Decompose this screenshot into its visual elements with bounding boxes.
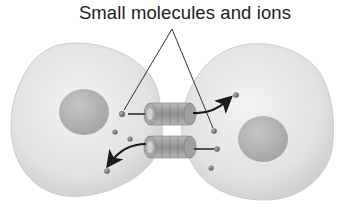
upper-gap-junction-channel: [144, 103, 196, 125]
molecule: [127, 136, 132, 141]
molecule: [104, 168, 110, 174]
right-nucleus: [238, 116, 288, 162]
molecule: [112, 129, 117, 134]
left-nucleus: [59, 89, 109, 135]
left-cell: [11, 43, 162, 196]
diagram-label: Small molecules and ions: [0, 2, 340, 24]
molecule: [208, 165, 213, 170]
molecule: [211, 128, 217, 134]
lower-gap-junction-channel: [144, 136, 196, 158]
gap-junction-diagram: Small molecules and ions: [0, 0, 340, 209]
molecule: [214, 146, 220, 152]
molecule: [233, 92, 239, 98]
diagram-canvas: [0, 0, 340, 209]
molecule: [119, 111, 125, 117]
right-cell: [182, 44, 334, 200]
